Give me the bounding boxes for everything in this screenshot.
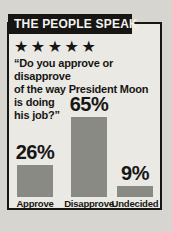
poll-question-line: “Do you approve or disapprove (14, 57, 164, 83)
bar-value-label-undecided: 9% (121, 162, 149, 184)
bar-value-label-disapprove: 65% (70, 93, 109, 115)
panel-title: THE PEOPLE SPEAK (8, 14, 132, 34)
newsprint-page-background: THE PEOPLE SPEAK ★★★★★ “Do you approve o… (0, 0, 172, 232)
approve-bar (17, 165, 53, 197)
five-star-rating-icon: ★★★★★ (14, 37, 98, 56)
category-label-approve: Approve (5, 198, 65, 209)
bar-group-approve: 26% (5, 141, 65, 197)
disapprove-bar (71, 117, 107, 197)
bar-group-undecided: 9% (105, 162, 165, 197)
undecided-bar (117, 186, 153, 197)
bar-value-label-approve: 26% (16, 141, 55, 163)
category-label-undecided: Undecided (105, 198, 165, 209)
